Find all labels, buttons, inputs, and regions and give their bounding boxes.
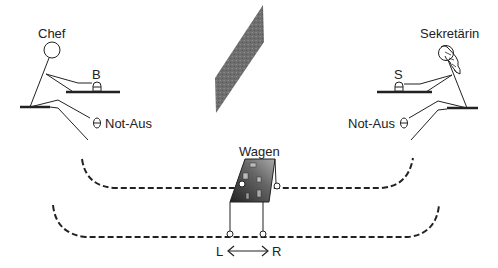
direction-indicator: L R <box>216 244 281 259</box>
secretary-label: Sekretärin <box>420 26 479 41</box>
cart[interactable]: Wagen <box>227 144 280 237</box>
secretary-button-s[interactable]: S <box>394 67 403 91</box>
upper-wheel-icon <box>274 183 280 189</box>
chef-emergency-stop[interactable]: Not-Aus <box>94 116 153 131</box>
cart-label: Wagen <box>239 144 280 159</box>
button-b-label: B <box>92 67 101 82</box>
push-button-icon <box>93 82 101 91</box>
button-s-label: S <box>394 67 403 82</box>
secretary-emergency-stop[interactable]: Not-Aus <box>348 116 408 131</box>
chef-button-b[interactable]: B <box>92 67 101 91</box>
emergency-stop-right-label: Not-Aus <box>348 116 395 131</box>
emergency-stop-left-label: Not-Aus <box>105 116 152 131</box>
right-wheel-icon <box>260 231 266 237</box>
direction-right-label: R <box>272 244 281 259</box>
wall-partition <box>215 5 264 113</box>
direction-left-label: L <box>216 244 223 259</box>
left-wheel-icon <box>227 231 233 237</box>
push-button-icon <box>395 82 403 91</box>
lower-track <box>53 205 439 237</box>
chef-label: Chef <box>38 26 66 41</box>
diagram-canvas: Chef B Not-Aus Sekretärin <box>0 0 498 268</box>
chef-head-icon <box>44 42 60 58</box>
